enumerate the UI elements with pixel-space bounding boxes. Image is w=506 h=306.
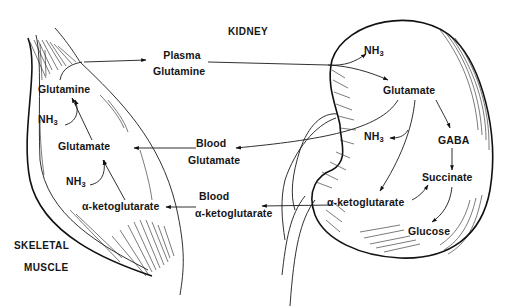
plasma-label-line1: Plasma (152, 49, 212, 61)
nh3-text: NH (66, 175, 81, 187)
kidney-nh3-top-label: NH3 (364, 44, 384, 56)
muscle-glutamine-label: Glutamine (38, 83, 90, 95)
arrow-kidney-akg-to-blood (262, 205, 332, 206)
arrow-akg-to-succinate (412, 185, 428, 200)
kidney-hilum-shading (316, 70, 356, 188)
blood-glutamate-line2: Glutamate (188, 154, 240, 166)
nh3-subscript: 3 (379, 135, 383, 144)
arrow-glutamine-curve (60, 62, 82, 80)
arrow-to-kidney-glutamate (328, 65, 388, 80)
arrow-plasma-to-kidney (208, 62, 328, 65)
nh3-subscript: 3 (53, 118, 57, 127)
kidney-succinate-label: Succinate (422, 171, 473, 183)
muscle-glutamate-label: Glutamate (58, 140, 110, 152)
blood-akg-line2: α-ketoglutarate (195, 207, 272, 219)
kidney-nh3-mid-label: NH3 (364, 130, 384, 142)
arrow-muscle-glu-to-gln (72, 98, 92, 140)
kidney-akg-label: α-ketoglutarate (327, 196, 404, 208)
muscle-nh3-upper-label: NH3 (38, 113, 58, 125)
arrow-release-nh3-mid (390, 130, 408, 138)
muscle-title-line1: SKELETAL (14, 240, 69, 252)
arrow-succinate-to-glucose (432, 187, 452, 222)
plasma-label-line2: Glutamine (146, 65, 212, 77)
arrow-glutamine-to-plasma (84, 60, 146, 62)
kidney-gaba-label: GABA (438, 134, 469, 146)
kidney-glutamate-label: Glutamate (383, 84, 435, 96)
muscle-tendon-hatching-bottom (70, 210, 174, 276)
nh3-text: NH (364, 44, 379, 56)
diagram-artwork (0, 0, 506, 306)
blood-akg-line1: Blood (199, 190, 229, 202)
arrow-consume-nh3-upper (65, 100, 77, 125)
kidney-title: KIDNEY (228, 26, 268, 38)
muscle-nh3-lower-label: NH3 (66, 175, 86, 187)
arrow-glu-to-gaba (436, 100, 450, 128)
muscle-inner-edge (36, 35, 148, 270)
nh3-text: NH (38, 113, 53, 125)
nh3-subscript: 3 (81, 180, 85, 189)
kidney-glucose-label: Glucose (408, 225, 450, 237)
muscle-title-line2: MUSCLE (24, 262, 69, 274)
nh3-text: NH (364, 130, 379, 142)
kidney-drawing (282, 20, 493, 306)
muscle-akg-label: α-ketoglutarate (82, 200, 159, 212)
arrow-consume-nh3-lower (90, 160, 104, 185)
blood-glutamate-line1: Blood (196, 137, 226, 149)
arrow-muscle-akg-to-glu (103, 160, 125, 200)
glutamine-cycle-diagram: KIDNEY SKELETAL MUSCLE Glutamine NH3 Glu… (0, 0, 506, 306)
ureter-line-2 (282, 196, 305, 275)
nh3-subscript: 3 (379, 49, 383, 58)
